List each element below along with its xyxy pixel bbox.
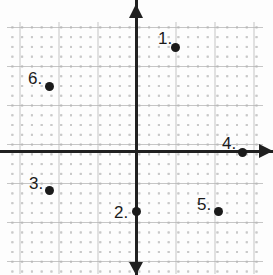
- y-axis-arrow-up-icon: [129, 4, 143, 18]
- data-point-label-3: 3.: [29, 175, 43, 192]
- data-point-5: [214, 207, 223, 216]
- data-point-label-5: 5.: [197, 196, 211, 213]
- data-point-2: [132, 207, 141, 216]
- data-point-label-4: 4.: [222, 135, 236, 152]
- coordinate-plane-figure: 1.2.3.4.5.6.: [0, 0, 273, 275]
- data-point-6: [45, 82, 54, 91]
- data-point-4: [238, 148, 247, 157]
- y-axis-arrow-down-icon: [129, 262, 143, 275]
- data-point-label-1: 1.: [158, 30, 172, 47]
- data-point-3: [45, 186, 54, 195]
- data-point-label-6: 6.: [28, 70, 42, 87]
- y-axis: [135, 0, 138, 275]
- x-axis-arrow-right-icon: [259, 144, 273, 158]
- data-point-label-2: 2.: [114, 204, 128, 221]
